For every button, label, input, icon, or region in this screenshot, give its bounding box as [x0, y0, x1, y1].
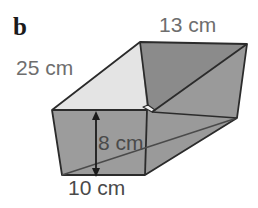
dimension-label-slant-length: 25 cm [16, 57, 73, 78]
face-right-lower [145, 110, 237, 175]
prism-drawing [0, 0, 258, 208]
dimension-label-height: 8 cm [98, 132, 144, 153]
dimension-label-base-width: 10 cm [68, 177, 125, 198]
dimension-label-top-width: 13 cm [159, 14, 216, 35]
geometry-figure: b 25 cm 13 cm 8 cm 10 cm [0, 0, 258, 208]
part-letter-b: b [13, 14, 27, 39]
